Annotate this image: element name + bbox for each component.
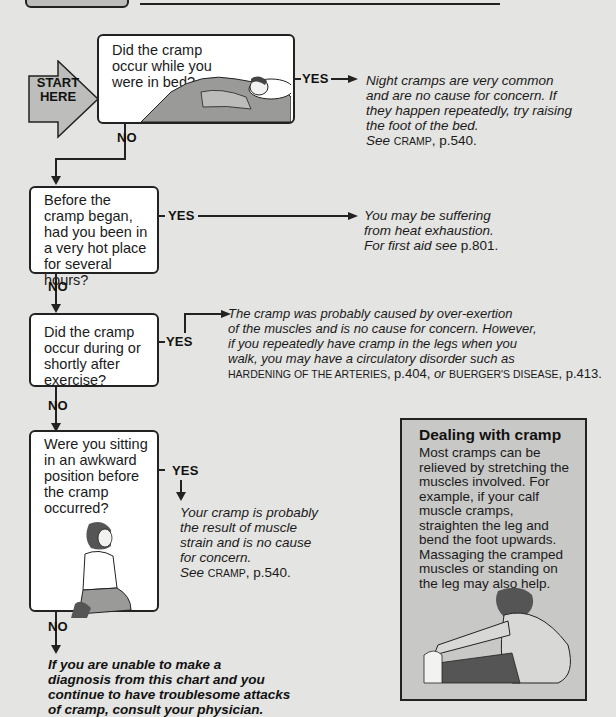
connector xyxy=(55,158,57,178)
no-label-1: NO xyxy=(117,130,137,145)
tip-title: Dealing with cramp xyxy=(419,426,571,444)
question-box-2: Before the cramp began, had you been in … xyxy=(29,186,159,274)
connector xyxy=(295,78,301,80)
question-box-3: Did the cramp occur during or shortly af… xyxy=(29,313,159,387)
sleeping-person-illustration xyxy=(141,67,291,122)
question-text-2: Before the cramp began, had you been in … xyxy=(44,192,149,288)
no-label-3: NO xyxy=(48,398,68,413)
kneeling-person-illustration xyxy=(61,518,141,618)
no-label-4: NO xyxy=(48,619,68,634)
yes-label-2: YES xyxy=(168,208,195,223)
start-label: START HERE xyxy=(36,76,80,104)
arrow-down-icon xyxy=(176,492,186,501)
arrow-down-icon xyxy=(51,304,61,313)
question-box-4: Were you sitting in an awkward position … xyxy=(29,430,159,612)
no-label-2: NO xyxy=(48,279,68,294)
question-text-3: Did the cramp occur during or shortly af… xyxy=(44,324,149,388)
dealing-with-cramp-box: Dealing with cramp Most cramps can be re… xyxy=(400,418,587,701)
tip-body: Most cramps can be relieved by stretchin… xyxy=(419,446,571,591)
connector xyxy=(198,215,348,217)
final-advice: If you are unable to make a diagnosis fr… xyxy=(48,657,290,717)
connector xyxy=(159,341,165,343)
connector xyxy=(159,469,165,471)
connector xyxy=(184,313,186,333)
arrow-right-icon xyxy=(348,212,358,220)
question-box-1: Did the cramp occur while you were in be… xyxy=(97,34,295,124)
yes-label-3: YES xyxy=(166,334,193,349)
connector xyxy=(184,313,222,315)
question-text-4: Were you sitting in an awkward position … xyxy=(44,436,149,516)
stretching-person-illustration xyxy=(408,585,578,693)
header-rule xyxy=(140,3,500,5)
answer-1: Night cramps are very common and are no … xyxy=(366,73,572,149)
answer-4: Your cramp is probably the result of mus… xyxy=(180,505,318,581)
yes-label-1: YES xyxy=(302,71,329,86)
arrow-down-icon xyxy=(51,176,61,185)
answer-2: You may be suffering from heat exhaustio… xyxy=(364,208,498,253)
arrow-right-icon xyxy=(348,75,358,83)
connector xyxy=(55,158,126,160)
answer-3: The cramp was probably caused by over-ex… xyxy=(228,306,602,382)
yes-label-4: YES xyxy=(172,463,199,478)
header-tab xyxy=(25,0,129,8)
connector xyxy=(159,215,165,217)
connector xyxy=(331,78,349,80)
arrow-down-icon xyxy=(51,645,61,654)
